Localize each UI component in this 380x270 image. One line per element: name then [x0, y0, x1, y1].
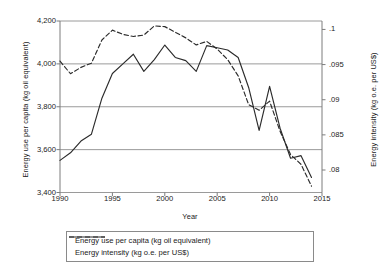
legend-item-energy-intensity: Energy intensity (kg o.e. per US$) — [75, 247, 307, 259]
series-line-energy-use — [60, 45, 312, 177]
right-tick-marks — [322, 29, 326, 170]
left-tick-marks — [57, 21, 61, 193]
series-line-energy-intensity — [60, 26, 312, 186]
energy-chart-figure: Energy use per capita (kg oil equivalent… — [0, 0, 380, 270]
bottom-tick-marks — [60, 193, 322, 197]
legend-item-energy-use: Energy use per capita (kg oil equivalent… — [75, 235, 307, 247]
legend: Energy use per capita (kg oil equivalent… — [66, 231, 314, 262]
plot-area — [0, 0, 380, 270]
legend-dashed-line-swatch — [67, 232, 107, 242]
legend-label-energy-intensity: Energy intensity (kg o.e. per US$) — [75, 248, 189, 258]
data-series-layer — [60, 26, 312, 186]
